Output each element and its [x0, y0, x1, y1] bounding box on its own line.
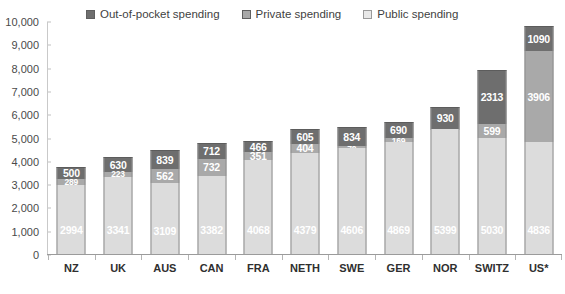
stacked-bar-chart: Out-of-pocket spendingPrivate spendingPu… — [0, 0, 565, 294]
stacked-bar[interactable]: 23135995030 — [477, 70, 506, 255]
x-axis-tick-label: CAN — [188, 262, 235, 274]
y-axis: 10,0009,0008,0007,0006,0005,0004,0003,00… — [0, 22, 47, 255]
stacked-bar[interactable]: 4663514068 — [244, 141, 273, 255]
x-axis-tickmarks — [48, 255, 562, 260]
bar-segment[interactable]: 2313 — [477, 70, 506, 124]
bar-value-label: 930 — [437, 113, 454, 124]
bar-segment[interactable]: 351 — [244, 152, 273, 160]
bar-value-label: 4379 — [294, 225, 317, 236]
y-axis-tick-label: 3,000 — [11, 179, 39, 191]
y-axis-tick-label: 2,000 — [11, 202, 39, 214]
bar-segment[interactable]: 5030 — [477, 138, 506, 255]
bar-group: 5002892994630223334183956231097127323382… — [48, 22, 562, 255]
stacked-bar[interactable]: 8395623109 — [150, 150, 179, 255]
y-axis-tick-label: 4,000 — [11, 156, 39, 168]
bar-segment[interactable]: 3109 — [150, 183, 179, 255]
bar-segment[interactable]: 599 — [477, 124, 506, 138]
bar-value-label: 1090 — [527, 34, 550, 45]
legend-label: Private spending — [256, 8, 342, 20]
stacked-bar[interactable]: 930225399 — [431, 107, 460, 255]
bar-value-label: 3382 — [200, 225, 223, 236]
x-axis-tick-label: US* — [515, 262, 562, 274]
x-axis-tickmark — [235, 255, 282, 260]
chart-legend: Out-of-pocket spendingPrivate spendingPu… — [86, 4, 458, 24]
stacked-bar[interactable]: 5002892994 — [57, 167, 86, 255]
x-axis-tick-label: NETH — [282, 262, 329, 274]
bar-segment[interactable]: 289 — [57, 179, 86, 186]
bar-value-label: 599 — [484, 126, 501, 137]
x-axis-tickmark — [282, 255, 329, 260]
bar-value-label: 4068 — [247, 225, 270, 236]
x-axis-tick-label: UK — [95, 262, 142, 274]
x-axis-tick-label: NOR — [422, 262, 469, 274]
stacked-bar[interactable]: 6302233341 — [104, 157, 133, 255]
bar-segment[interactable]: 4068 — [244, 160, 273, 255]
bar-value-label: 3341 — [107, 225, 130, 236]
bar-value-label: 3906 — [527, 92, 550, 103]
bar-value-label: 562 — [156, 171, 173, 182]
y-axis-tick-label: 7,000 — [11, 86, 39, 98]
y-axis-tick-label: 0 — [33, 249, 39, 261]
stacked-bar[interactable]: 6901694869 — [384, 122, 413, 255]
legend-label: Out-of-pocket spending — [100, 8, 220, 20]
bar-value-label: 3109 — [154, 226, 177, 237]
bar-value-label: 5030 — [481, 225, 504, 236]
x-axis-tickmark — [188, 255, 235, 260]
bar-segment[interactable]: 732 — [197, 159, 226, 176]
y-axis-tick-label: 9,000 — [11, 39, 39, 51]
bar-slot: 834704606 — [328, 22, 375, 255]
x-axis-tickmark — [48, 255, 95, 260]
legend-item[interactable]: Out-of-pocket spending — [86, 8, 220, 20]
bar-segment[interactable]: 4836 — [524, 142, 553, 255]
bar-segment[interactable]: 930 — [431, 107, 460, 129]
stacked-bar[interactable]: 109039064836 — [524, 26, 553, 255]
bar-segment[interactable]: 1090 — [524, 26, 553, 51]
bar-slot: 7127323382 — [188, 22, 235, 255]
bar-segment[interactable]: 3906 — [524, 51, 553, 142]
bar-segment[interactable]: 4606 — [337, 148, 366, 255]
bar-slot: 6901694869 — [375, 22, 422, 255]
x-axis-tick-label: NZ — [48, 262, 95, 274]
bar-slot: 23135995030 — [469, 22, 516, 255]
bar-value-label: 5399 — [434, 225, 457, 236]
y-axis-tick-label: 10,000 — [5, 16, 39, 28]
y-axis-tick-label: 6,000 — [11, 109, 39, 121]
bar-slot: 4663514068 — [235, 22, 282, 255]
bar-segment[interactable]: 839 — [150, 150, 179, 170]
bar-value-label: 732 — [203, 162, 220, 173]
bar-segment[interactable]: 4869 — [384, 142, 413, 255]
stacked-bar[interactable]: 7127323382 — [197, 143, 226, 255]
x-axis-tick-label: FRA — [235, 262, 282, 274]
y-axis-tick-label: 8,000 — [11, 63, 39, 75]
bar-slot: 8395623109 — [141, 22, 188, 255]
x-axis-tick-label: AUS — [141, 262, 188, 274]
bar-value-label: 4606 — [340, 225, 363, 236]
bar-segment[interactable]: 3341 — [104, 177, 133, 255]
x-axis-tick-label: GER — [375, 262, 422, 274]
bar-segment[interactable]: 605 — [291, 129, 320, 143]
bar-segment[interactable]: 5399 — [431, 129, 460, 255]
bar-slot: 930225399 — [422, 22, 469, 255]
stacked-bar[interactable]: 6054044379 — [291, 129, 320, 255]
legend-swatch-icon — [363, 10, 372, 19]
x-axis: NZUKAUSCANFRANETHSWEGERNORSWITZUS* — [48, 262, 562, 274]
legend-item[interactable]: Private spending — [242, 8, 342, 20]
x-axis-tick-label: SWE — [328, 262, 375, 274]
x-axis-tick-label: SWITZ — [469, 262, 516, 274]
bar-segment[interactable]: 4379 — [291, 153, 320, 255]
legend-swatch-icon — [242, 10, 251, 19]
bar-value-label: 839 — [156, 155, 173, 166]
bar-segment[interactable]: 562 — [150, 169, 179, 182]
stacked-bar[interactable]: 834704606 — [337, 127, 366, 255]
bar-value-label: 4869 — [387, 225, 410, 236]
bar-segment[interactable]: 2994 — [57, 185, 86, 255]
bar-segment[interactable]: 712 — [197, 143, 226, 160]
bar-value-label: 834 — [343, 132, 360, 143]
x-axis-tickmark — [469, 255, 516, 260]
bar-value-label: 4836 — [527, 225, 550, 236]
bar-segment[interactable]: 3382 — [197, 176, 226, 255]
legend-item[interactable]: Public spending — [363, 8, 458, 20]
bar-segment[interactable]: 404 — [291, 144, 320, 153]
x-axis-tickmark — [328, 255, 375, 260]
bar-value-label: 2994 — [60, 225, 83, 236]
